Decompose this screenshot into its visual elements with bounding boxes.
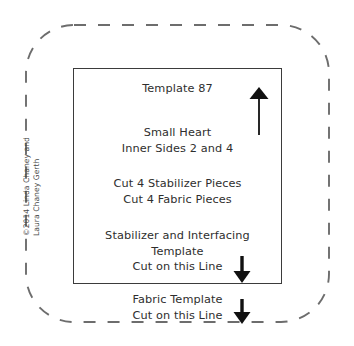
pattern-sheet: Template 87 Small Heart Inner Sides 2 an… xyxy=(0,0,354,346)
stabilizer-cut-arrow xyxy=(232,256,252,284)
grain-line-arrow xyxy=(248,86,270,136)
copyright-line-1: ©2014 Linda Chaney and xyxy=(22,124,32,236)
fabric-cut-arrow xyxy=(232,299,252,325)
cut-instructions-line-1: Cut 4 Stabilizer Pieces xyxy=(73,176,282,192)
cut-instructions-line-2: Cut 4 Fabric Pieces xyxy=(73,192,282,208)
arrow-down-icon xyxy=(234,312,251,324)
piece-name-line-2: Inner Sides 2 and 4 xyxy=(73,141,282,157)
arrow-down-icon xyxy=(234,271,251,283)
copyright-line-2: Laura Chaney Gerth xyxy=(32,124,42,236)
stabilizer-instructions-line-1: Stabilizer and Interfacing xyxy=(73,228,282,244)
cut-instructions: Cut 4 Stabilizer Pieces Cut 4 Fabric Pie… xyxy=(73,176,282,207)
copyright-notice: ©2014 Linda Chaney and Laura Chaney Gert… xyxy=(22,124,50,236)
